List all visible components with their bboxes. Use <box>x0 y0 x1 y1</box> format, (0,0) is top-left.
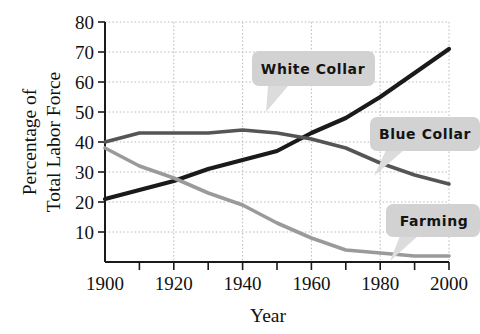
y-tick-label: 60 <box>75 72 94 93</box>
y-axis-tick-labels: 1020304050607080 <box>75 12 94 243</box>
callout-tail-white-collar <box>266 86 288 112</box>
y-axis-label-line1: Percentage of <box>19 88 40 195</box>
y-tick-label: 40 <box>75 132 94 153</box>
y-tick-label: 50 <box>75 102 94 123</box>
callout-farming: Farming <box>386 204 480 261</box>
chart-container: 1020304050607080 19001920194019601980200… <box>0 0 480 334</box>
x-tick-label: 1980 <box>361 273 399 294</box>
callout-label-farming: Farming <box>400 213 469 229</box>
x-tick-label: 2000 <box>430 273 468 294</box>
callout-white-collar: White Collar <box>252 51 375 112</box>
y-tick-label: 70 <box>75 42 94 63</box>
x-axis-ticks <box>139 262 449 270</box>
x-tick-label: 1920 <box>155 273 193 294</box>
line-chart: 1020304050607080 19001920194019601980200… <box>0 0 480 334</box>
callout-blue-collar: Blue Collar <box>370 117 480 176</box>
x-tick-label: 1960 <box>292 273 330 294</box>
x-axis-tick-labels: 190019201940196019802000 <box>86 273 468 294</box>
y-tick-label: 30 <box>75 162 94 183</box>
y-tick-label: 80 <box>75 12 94 33</box>
x-tick-label: 1900 <box>86 273 124 294</box>
y-tick-label: 10 <box>75 222 94 243</box>
callout-label-blue-collar: Blue Collar <box>379 126 471 142</box>
x-tick-label: 1940 <box>224 273 262 294</box>
y-axis-label-line2: Total Labor Force <box>43 72 64 213</box>
y-tick-label: 20 <box>75 192 94 213</box>
callout-label-white-collar: White Collar <box>261 61 365 77</box>
x-axis-label: Year <box>250 305 286 326</box>
